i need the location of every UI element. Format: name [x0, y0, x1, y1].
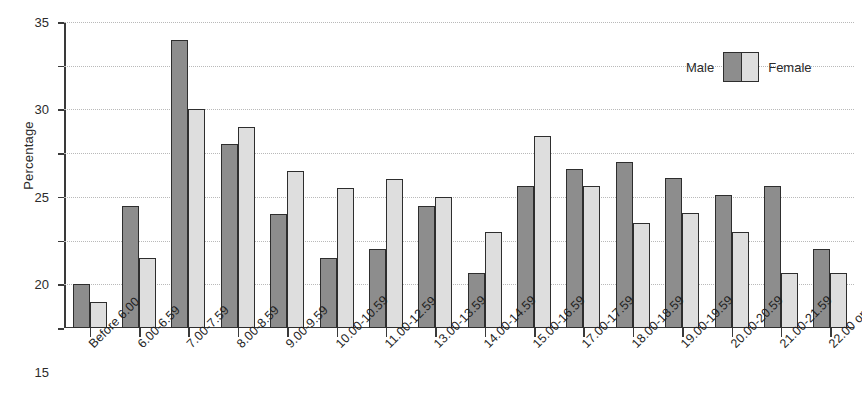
chart-legend: Male Female: [686, 52, 812, 82]
bar-group: [616, 22, 650, 328]
bar-group: [813, 22, 847, 328]
bar-group: [171, 22, 205, 328]
bar-female: [287, 171, 304, 328]
legend-swatch: [723, 52, 759, 82]
bar-female: [534, 136, 551, 328]
bar-female: [682, 213, 699, 328]
legend-swatch-female: [742, 53, 759, 81]
bar-male: [221, 144, 238, 328]
bar-female: [238, 127, 255, 328]
bar-group: [73, 22, 107, 328]
bar-group: [320, 22, 354, 328]
y-tick-label: 20: [35, 277, 49, 292]
bar-group: [517, 22, 551, 328]
bar-chart: Percentage 05101520253035 Before 6.006.0…: [0, 0, 862, 420]
bar-female: [435, 197, 452, 328]
legend-label-female: Female: [768, 60, 811, 75]
bar-group: [369, 22, 403, 328]
bar-female: [485, 232, 502, 328]
bar-group: [468, 22, 502, 328]
bar-female: [583, 186, 600, 328]
bar-male: [73, 284, 90, 328]
y-tick-label: 25: [35, 189, 49, 204]
y-tick-label: 15: [35, 364, 49, 379]
y-tick-label: 35: [35, 15, 49, 30]
bar-group: [566, 22, 600, 328]
bar-female: [337, 188, 354, 328]
legend-swatch-male: [724, 53, 741, 81]
bar-group: [221, 22, 255, 328]
bar-male: [171, 40, 188, 329]
bar-group: [122, 22, 156, 328]
bar-female: [139, 258, 156, 328]
bar-female: [386, 179, 403, 328]
bar-female: [188, 109, 205, 328]
bar-group: [270, 22, 304, 328]
y-tick-mark: 0: [58, 328, 64, 330]
legend-label-male: Male: [686, 60, 714, 75]
bar-group: [418, 22, 452, 328]
bar-female: [732, 232, 749, 328]
bar-female: [633, 223, 650, 328]
y-tick-label: 30: [35, 102, 49, 117]
y-axis-title: Percentage: [21, 66, 36, 246]
